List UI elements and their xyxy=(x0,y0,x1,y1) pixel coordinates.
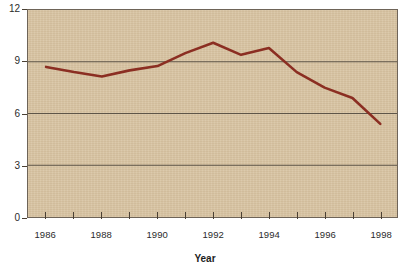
x-axis-tick xyxy=(45,212,46,219)
y-axis-tick-label: 3 xyxy=(0,161,20,171)
y-axis-tick-label: 6 xyxy=(0,109,20,119)
x-axis-tick xyxy=(213,212,214,219)
x-axis-tick-label: 1992 xyxy=(193,230,233,240)
x-axis-tick-label: 1998 xyxy=(361,230,401,240)
data-series-line xyxy=(46,43,380,124)
x-axis-tick xyxy=(185,212,186,219)
y-axis-tick xyxy=(22,9,27,10)
gridlines xyxy=(28,62,397,166)
x-axis-tick xyxy=(269,212,270,219)
x-axis-tick xyxy=(353,212,354,219)
plot-svg xyxy=(28,10,397,217)
x-axis-tick-label: 1986 xyxy=(25,230,65,240)
x-axis-tick xyxy=(73,212,74,219)
y-axis-tick-label: 9 xyxy=(0,56,20,66)
x-axis-tick xyxy=(157,212,158,219)
x-axis-tick xyxy=(129,212,130,219)
plot-area xyxy=(27,9,398,218)
x-axis-tick-label: 1990 xyxy=(137,230,177,240)
x-axis-tick xyxy=(241,212,242,219)
x-axis-title: Year xyxy=(0,253,410,264)
y-axis-tick xyxy=(22,166,27,167)
x-axis-tick xyxy=(381,212,382,219)
x-axis-tick-label: 1996 xyxy=(305,230,345,240)
y-axis-tick-label: 12 xyxy=(0,4,20,14)
x-axis-tick xyxy=(101,212,102,219)
x-axis-tick-label: 1994 xyxy=(249,230,289,240)
y-axis-tick xyxy=(22,218,27,219)
line-chart: 036912 1986198819901992199419961998 Year xyxy=(0,0,410,273)
y-axis-tick xyxy=(22,61,27,62)
x-axis-tick-label: 1988 xyxy=(81,230,121,240)
y-axis-tick xyxy=(22,114,27,115)
x-axis-tick xyxy=(325,212,326,219)
y-axis-tick-label: 0 xyxy=(0,213,20,223)
x-axis-tick xyxy=(297,212,298,219)
